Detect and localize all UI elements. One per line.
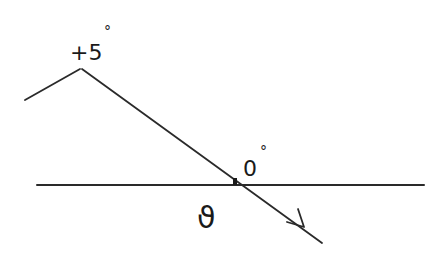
angle-symbol-label: ϑ — [197, 200, 216, 235]
top-angle-label: +5 — [70, 40, 102, 65]
intersection-point — [233, 178, 237, 185]
crossing-angle-degree: ° — [260, 143, 267, 159]
left-segment — [25, 69, 80, 100]
angle-diagram: +5 ° 0 ° ϑ — [0, 0, 442, 256]
crossing-angle-label: 0 — [243, 156, 257, 181]
top-angle-degree: ° — [104, 23, 111, 39]
arrowhead-icon — [287, 209, 304, 227]
